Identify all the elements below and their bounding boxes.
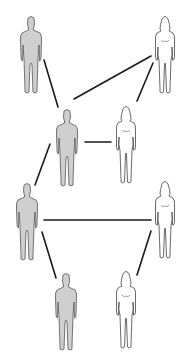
edges-layer	[35, 56, 153, 278]
male-figure-icon-m2	[56, 110, 77, 187]
connection-line-m2-m3	[35, 144, 50, 185]
male-figure-icon-m1	[20, 17, 41, 94]
female-figure-icon-f4	[116, 272, 135, 349]
network-diagram	[0, 0, 193, 363]
connection-line-f1-f2	[137, 63, 153, 101]
female-figure-icon-f2	[116, 107, 135, 184]
female-figure-icon-f1	[155, 17, 174, 94]
male-figure-icon-m3	[16, 184, 37, 261]
connection-line-m2-f1	[74, 56, 151, 99]
female-figure-icon-f3	[155, 182, 174, 259]
connection-line-f3-f4	[137, 231, 151, 275]
connection-line-m1-m2	[44, 60, 58, 107]
male-figure-icon-m4	[55, 274, 76, 351]
connection-line-m3-m4	[42, 232, 56, 278]
